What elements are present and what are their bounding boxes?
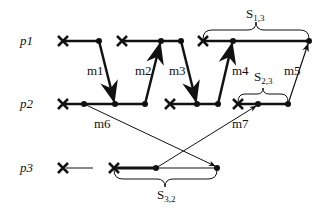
event-dot-icon (230, 38, 236, 44)
message-arrow-m4 (218, 44, 232, 104)
brace-s32 (114, 170, 217, 187)
event-dot-icon (194, 101, 200, 107)
message-label-m6: m6 (94, 116, 111, 131)
message-label-m3: m3 (169, 63, 186, 78)
message-label-m2: m2 (135, 63, 152, 78)
process-label-p1: p1 (19, 33, 33, 48)
message-arrow-m6 (84, 104, 215, 166)
message-label-m1: m1 (87, 63, 104, 78)
brace-label-s23: S2,3 (254, 69, 273, 86)
brace-s23 (238, 88, 288, 102)
brace-label-s32: S3,2 (157, 187, 175, 204)
event-dot-icon (178, 38, 184, 44)
message-label-m5: m5 (284, 63, 301, 78)
brace-label-s13: S1,3 (246, 6, 265, 23)
space-time-diagram: p1 p2 p3 (0, 0, 330, 213)
message-label-m7: m7 (232, 116, 249, 131)
event-dot-icon (112, 101, 118, 107)
process-label-p3: p3 (19, 160, 34, 175)
process-label-p2: p2 (19, 96, 34, 111)
brace-s13 (203, 22, 309, 39)
message-label-m4: m4 (232, 63, 249, 78)
